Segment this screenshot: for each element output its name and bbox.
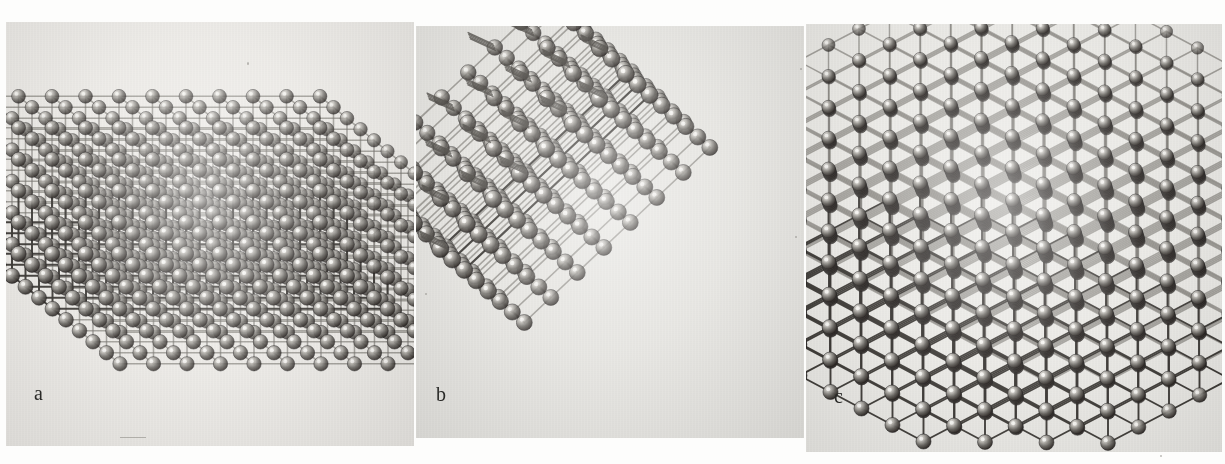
panel-a [6, 22, 414, 446]
panel-label-c: c [834, 386, 843, 406]
scan-speck [1160, 455, 1162, 457]
scan-speck [120, 437, 146, 438]
lattice-model-b [416, 26, 804, 438]
panel-c [806, 24, 1222, 452]
scan-speck [795, 236, 797, 238]
figure-root: a b c [0, 0, 1225, 464]
scan-speck [800, 68, 802, 70]
scan-speck [1190, 115, 1192, 117]
scan-speck [247, 62, 249, 65]
lattice-model-c [806, 24, 1222, 452]
panel-label-a: a [34, 383, 43, 403]
panel-b [416, 26, 804, 438]
scan-speck [425, 293, 427, 295]
panel-label-b: b [436, 384, 447, 404]
lattice-model-a [6, 22, 414, 446]
